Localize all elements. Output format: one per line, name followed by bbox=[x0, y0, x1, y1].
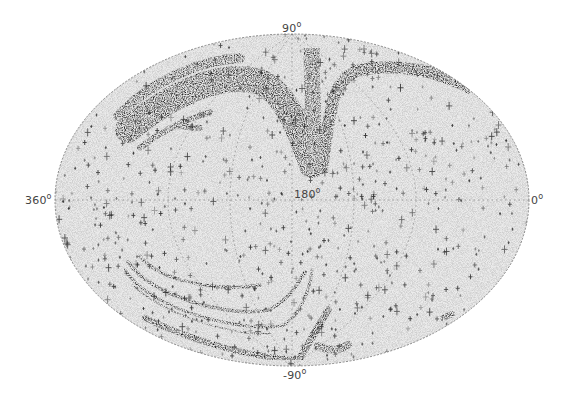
degree-symbol: o bbox=[316, 186, 321, 195]
label-text: 180 bbox=[294, 188, 316, 201]
degree-symbol: o bbox=[302, 367, 307, 376]
label-top-90: 90o bbox=[282, 20, 302, 35]
degree-symbol: o bbox=[47, 192, 52, 201]
label-left-360: 360o bbox=[25, 192, 52, 207]
degree-symbol: o bbox=[296, 20, 301, 29]
sky-map-chart bbox=[0, 0, 573, 399]
label-text: 360 bbox=[25, 194, 47, 207]
label-text: 90 bbox=[282, 22, 296, 35]
label-center-180: 180o bbox=[294, 186, 321, 201]
label-bottom-minus-90: -90o bbox=[283, 367, 307, 382]
label-text: -90 bbox=[283, 369, 302, 382]
label-right-0: 0o bbox=[531, 192, 543, 207]
degree-symbol: o bbox=[538, 192, 543, 201]
